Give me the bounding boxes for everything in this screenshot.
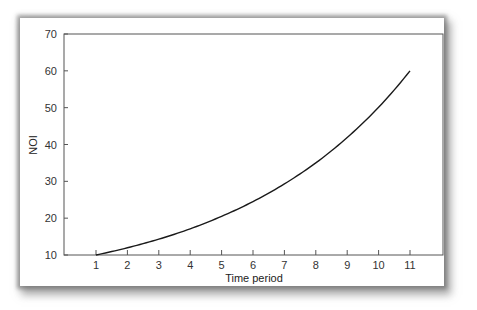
x-tick-label: 11 bbox=[404, 259, 415, 271]
y-tick-label: 70 bbox=[45, 28, 57, 40]
x-tick-label: 9 bbox=[344, 259, 350, 271]
line-chart: 10203040506070 1234567891011 Time period… bbox=[0, 0, 477, 310]
plot-border bbox=[64, 34, 443, 255]
y-tick-label: 60 bbox=[45, 65, 57, 77]
x-tick-label: 10 bbox=[372, 259, 384, 271]
y-axis: 10203040506070 bbox=[45, 28, 68, 261]
y-tick-label: 20 bbox=[45, 212, 57, 224]
x-tick-label: 4 bbox=[187, 259, 193, 271]
y-tick-label: 30 bbox=[45, 175, 57, 187]
y-tick-label: 10 bbox=[45, 249, 57, 261]
x-axis: 1234567891011 bbox=[93, 250, 416, 271]
y-tick-label: 50 bbox=[45, 102, 57, 114]
x-tick-label: 8 bbox=[313, 259, 319, 271]
x-tick-label: 7 bbox=[281, 259, 287, 271]
x-tick-label: 5 bbox=[219, 259, 225, 271]
x-tick-label: 2 bbox=[124, 259, 130, 271]
y-tick-label: 40 bbox=[45, 139, 57, 151]
x-tick-label: 3 bbox=[156, 259, 162, 271]
x-tick-label: 6 bbox=[250, 259, 256, 271]
y-axis-title: NOI bbox=[27, 135, 39, 155]
x-axis-title: Time period bbox=[225, 272, 283, 284]
x-tick-label: 1 bbox=[93, 259, 99, 271]
plot-area bbox=[64, 34, 443, 255]
noi-curve bbox=[96, 71, 410, 255]
